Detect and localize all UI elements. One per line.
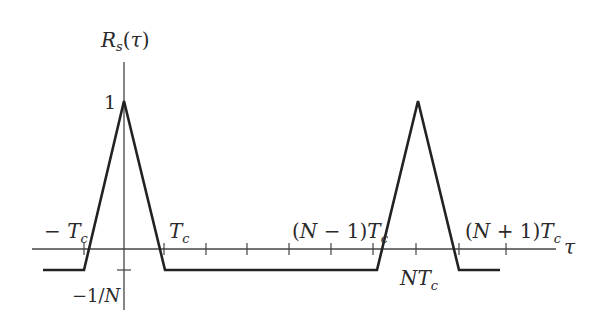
minus-tc-label: − Tc	[44, 219, 88, 246]
tc-label: Tc	[169, 219, 190, 246]
peak-label: 1	[104, 91, 116, 113]
autocorrelation-diagram: Rs(τ) 1 −1/N − Tc Tc (N − 1)Tc NTc (N + …	[0, 0, 591, 327]
y-axis-label: Rs(τ)	[100, 28, 149, 54]
n-minus-1-tc-label: (N − 1)Tc	[292, 219, 389, 246]
neg-level-label: −1/N	[72, 285, 122, 306]
x-axis-label: τ	[564, 235, 576, 259]
n-tc-label: NTc	[399, 266, 439, 293]
n-plus-1-tc-label: (N + 1)Tc	[465, 219, 562, 246]
autocorrelation-curve	[43, 101, 500, 270]
